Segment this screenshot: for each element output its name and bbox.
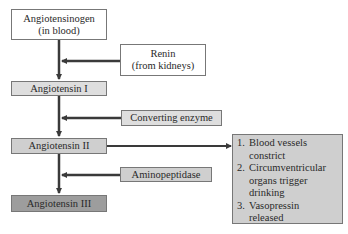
renin-box: Renin (from kidneys): [120, 44, 206, 76]
renin-source: (from kidneys): [132, 60, 195, 72]
angiotensin-3-label: Angiotensin III: [27, 198, 91, 210]
aminopeptidase-label: Aminopeptidase: [132, 169, 201, 181]
effect-item-2: 2. Circumventricularorgans triggerdrinki…: [237, 162, 326, 200]
aminopeptidase-box: Aminopeptidase: [120, 167, 212, 182]
angiotensin-1-label: Angiotensin I: [30, 83, 87, 95]
angiotensin-2-box: Angiotensin II: [11, 138, 107, 154]
converting-enzyme-label: Converting enzyme: [130, 112, 213, 124]
converting-enzyme-box: Converting enzyme: [121, 110, 222, 126]
renin-label: Renin: [150, 48, 175, 60]
effects-box: 1. Blood vesselsconstrict 2. Circumventr…: [232, 134, 343, 224]
angiotensinogen-location: (in blood): [38, 25, 80, 37]
angiotensin-3-box: Angiotensin III: [11, 195, 107, 212]
effect-item-3: 3. Vasopressinreleased: [237, 200, 299, 225]
angiotensinogen-label: Angiotensinogen: [23, 13, 95, 25]
angiotensin-1-box: Angiotensin I: [11, 81, 107, 96]
angiotensinogen-box: Angiotensinogen (in blood): [11, 9, 107, 40]
effect-item-1: 1. Blood vesselsconstrict: [237, 137, 307, 162]
angiotensin-2-label: Angiotensin II: [29, 140, 90, 152]
